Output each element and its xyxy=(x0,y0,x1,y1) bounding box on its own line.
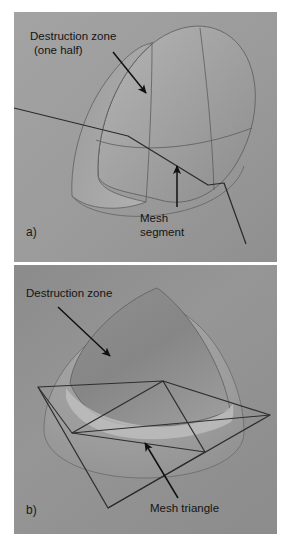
destruction-zone-b-label: Destruction zone xyxy=(26,287,112,299)
destruction-zone-label-line1: Destruction zone xyxy=(30,30,116,42)
figure-container: Destruction zone (one half) Mesh segment… xyxy=(0,0,289,549)
panel-a-label: a) xyxy=(26,225,37,239)
panel-a: Destruction zone (one half) Mesh segment… xyxy=(14,12,277,262)
figure-svg: Destruction zone (one half) Mesh segment… xyxy=(0,0,289,549)
mesh-segment-label-line2: segment xyxy=(140,226,185,238)
mesh-triangle-label: Mesh triangle xyxy=(150,502,219,514)
destruction-zone-label-line2: (one half) xyxy=(34,44,83,56)
mesh-segment-label-line1: Mesh xyxy=(140,212,168,224)
panel-b: Destruction zone Mesh triangle b) xyxy=(14,265,277,534)
panel-b-label: b) xyxy=(26,503,37,517)
